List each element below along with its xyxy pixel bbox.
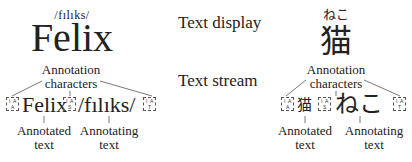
label-line: Annotated xyxy=(272,124,338,138)
text-stream-label: Text stream xyxy=(178,72,258,90)
interlinear-separator-box: I A S xyxy=(318,97,331,111)
box-glyph: T xyxy=(148,105,151,110)
label-line: Annotation xyxy=(30,63,112,77)
left-annotated-text-label: Annotated text xyxy=(12,124,76,152)
label-line: text xyxy=(338,138,410,152)
interlinear-terminator-box: I A T xyxy=(143,97,156,111)
right-stream-annotated-text: 猫 xyxy=(297,97,312,113)
right-base-text: 猫 xyxy=(314,22,358,60)
box-glyph: A xyxy=(286,105,289,110)
left-stream-annotating-text: /fılıks/ xyxy=(78,94,135,116)
box-glyph: A xyxy=(11,105,14,110)
box-glyph: T xyxy=(398,105,401,110)
right-annotation-characters-label: Annotation characters xyxy=(296,63,376,91)
interlinear-separator-box: I A S xyxy=(63,97,76,111)
label-line: characters xyxy=(296,77,376,91)
left-stream-annotated-text: Felix xyxy=(22,94,67,116)
right-stream-annotating-text: ねこ xyxy=(335,92,383,116)
label-line: text xyxy=(272,138,338,152)
label-line: Annotated xyxy=(12,124,76,138)
label-line: Annotating xyxy=(338,124,410,138)
left-annotation-characters-label: Annotation characters xyxy=(30,63,112,91)
interlinear-anchor-box: I A A xyxy=(6,97,19,111)
text-display-label: Text display xyxy=(178,14,261,32)
box-glyph: S xyxy=(323,105,326,110)
label-line: Annotation xyxy=(296,63,376,77)
left-annotating-text-label: Annotating text xyxy=(76,124,142,152)
interlinear-anchor-box: I A A xyxy=(281,97,294,111)
label-line: text xyxy=(76,138,142,152)
box-glyph: S xyxy=(68,105,71,110)
left-base-text: Felix xyxy=(26,17,118,59)
right-annotated-text-label: Annotated text xyxy=(272,124,338,152)
label-line: characters xyxy=(30,77,112,91)
right-annotating-text-label: Annotating text xyxy=(338,124,410,152)
right-ruby-text: ねこ xyxy=(316,8,356,22)
label-line: Annotating xyxy=(76,124,142,138)
label-line: text xyxy=(12,138,76,152)
interlinear-terminator-box: I A T xyxy=(393,97,406,111)
